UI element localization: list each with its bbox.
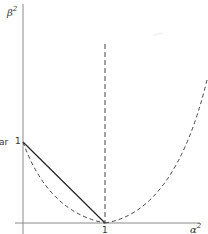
phase-diagram: β2 ar 1 1 α2 — [0, 0, 208, 234]
faint-mark — [153, 33, 163, 35]
x-tick-one-value: 1 — [102, 225, 108, 234]
y-axis-symbol: β — [7, 7, 13, 18]
diagram-canvas — [0, 0, 208, 234]
x-axis-symbol: α — [190, 224, 197, 234]
left-cut-text-value: ar — [0, 137, 8, 147]
y-tick-one-label: 1 — [15, 137, 21, 146]
x-axis-exponent: 2 — [197, 222, 201, 230]
x-tick-one-label: 1 — [102, 226, 108, 234]
y-tick-one-value: 1 — [15, 136, 21, 146]
left-cut-text: ar — [0, 138, 8, 147]
y-axis-exponent: 2 — [13, 5, 17, 13]
y-axis-label: β2 — [7, 8, 17, 18]
solid-diagonal-line — [23, 142, 105, 223]
x-axis-label: α2 — [190, 225, 201, 234]
dashed-right-curve — [105, 80, 207, 223]
